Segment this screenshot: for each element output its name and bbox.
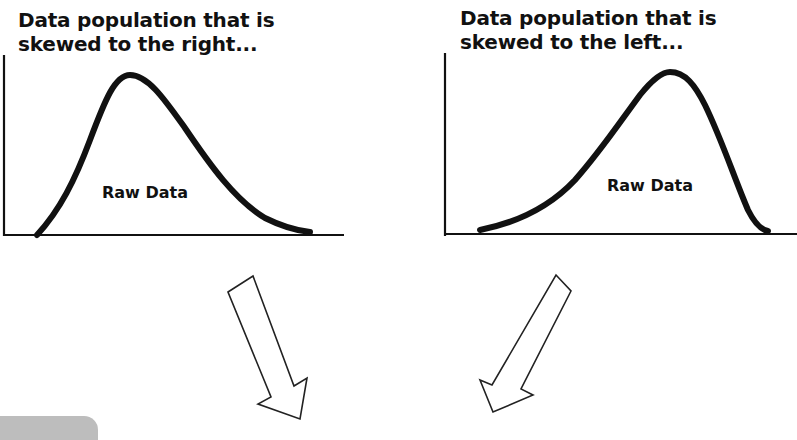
right-skewed-curve	[37, 75, 310, 235]
right-curve-label: Raw Data	[607, 176, 693, 195]
arrow-down-right-icon	[228, 276, 307, 419]
arrow-down-left-icon	[480, 275, 571, 412]
gray-corner-tab	[0, 416, 98, 440]
right-axes	[444, 53, 797, 236]
left-skewed-curve	[480, 72, 768, 231]
left-curve-label: Raw Data	[102, 183, 188, 202]
